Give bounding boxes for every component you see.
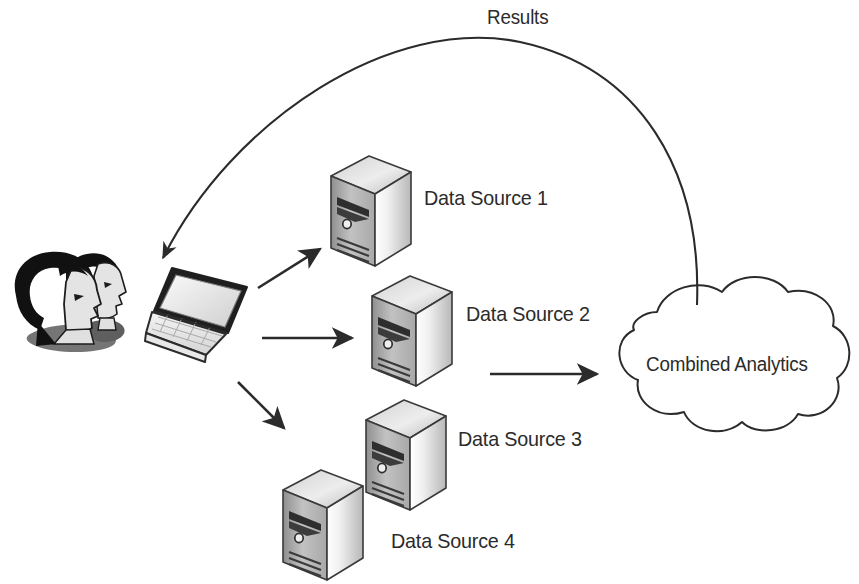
laptop-icon xyxy=(145,268,247,362)
arrow-laptop-to-data-source-4 xyxy=(238,382,284,428)
arrow-results-curve xyxy=(163,38,697,305)
results-label: Results xyxy=(487,6,548,29)
combined-analytics-label: Combined Analytics xyxy=(646,353,808,376)
data-source-1-label: Data Source 1 xyxy=(424,186,548,210)
diagram-canvas: Results Data Source 1 Data Source 2 Data… xyxy=(0,0,859,584)
data-source-2-label: Data Source 2 xyxy=(466,302,590,326)
server-data-source-3 xyxy=(366,400,446,510)
server-data-source-4 xyxy=(283,470,363,580)
diagram-svg xyxy=(0,0,859,584)
arrow-laptop-to-data-source-1 xyxy=(258,249,320,288)
users-pair-icon xyxy=(15,252,126,352)
server-data-source-2 xyxy=(372,276,452,386)
server-data-source-1 xyxy=(331,156,411,266)
data-source-4-label: Data Source 4 xyxy=(391,529,515,553)
data-source-3-label: Data Source 3 xyxy=(458,427,582,451)
